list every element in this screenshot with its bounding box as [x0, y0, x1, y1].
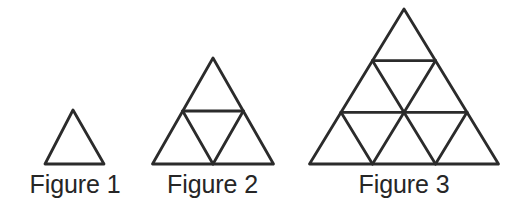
figure-3-caption: Figure 3 [330, 172, 478, 197]
figure-1-caption: Figure 1 [0, 172, 150, 197]
figure-sequence-canvas: Figure 1 Figure 2 Figure 3 [0, 0, 509, 208]
figure-2-caption: Figure 2 [145, 172, 280, 197]
figure-3-internal-edge-left-2 [341, 112, 373, 164]
figure-1-outer-triangle [45, 110, 104, 164]
figure-2-internal-edge-left [183, 111, 213, 164]
figure-1-triangle-group [45, 110, 104, 164]
figure-3-internal-edge-right-2 [436, 112, 468, 164]
figure-3-outer-triangle [310, 9, 499, 164]
figure-2-triangle-group [153, 58, 274, 164]
figure-2-internal-edge-right [213, 111, 243, 164]
figure-3-triangle-group [310, 9, 499, 164]
